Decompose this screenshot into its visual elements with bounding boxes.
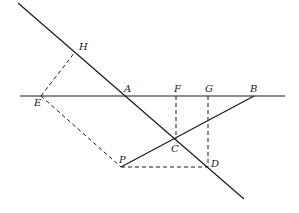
dashed-EP — [41, 96, 121, 167]
point-labels: H A E F G B C D P — [33, 41, 257, 169]
diagonal-line — [18, 3, 244, 199]
label-E: E — [33, 97, 42, 108]
label-F: F — [173, 83, 182, 94]
line-PB — [121, 96, 254, 167]
label-D: D — [210, 158, 219, 169]
label-P: P — [118, 154, 126, 165]
dashed-lines — [41, 52, 208, 167]
label-A: A — [123, 83, 131, 94]
label-C: C — [171, 143, 179, 154]
dashed-EH — [41, 52, 75, 96]
label-H: H — [78, 41, 88, 52]
geometry-diagram: H A E F G B C D P — [0, 0, 299, 213]
label-G: G — [205, 83, 213, 94]
solid-lines — [18, 3, 285, 199]
label-B: B — [249, 83, 257, 94]
